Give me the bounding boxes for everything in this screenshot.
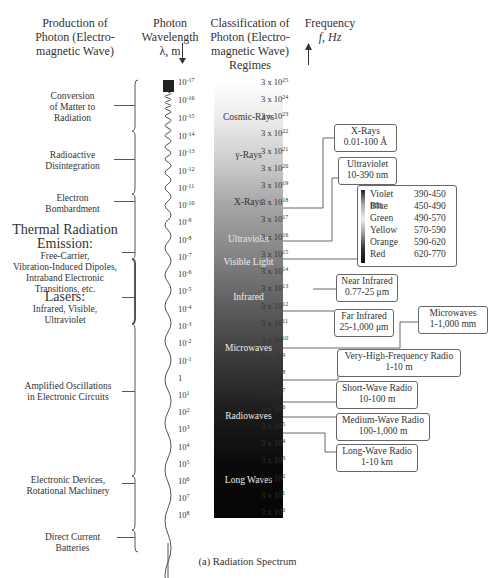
range-box-near-infrared: Near Infrared 0.77-25 μm (336, 274, 398, 302)
range-box-long-wave-radio: Long-Wave Radio 1-10 km (336, 444, 418, 472)
range-box-vhf-radio: Very-High-Frequency Radio 1-10 m (337, 349, 461, 377)
range-value: 100-1,000 m (340, 426, 426, 437)
range-value: 25-1,000 μm (338, 322, 390, 333)
visible-row: Orange590-620 (370, 237, 446, 248)
range-box-xrays: X-Rays 0.01-100 Å (334, 124, 397, 152)
range-name: Short-Wave Radio (340, 383, 414, 394)
range-value: 0.77-25 μm (340, 287, 394, 298)
range-name: Long-Wave Radio (340, 446, 414, 457)
range-connectors (0, 0, 495, 578)
range-name: Near Infrared (340, 276, 394, 287)
visible-row: Green490-570 (370, 213, 446, 224)
visible-row: Yellow570-590 (370, 225, 446, 236)
range-box-short-wave-radio: Short-Wave Radio 10-100 m (336, 381, 418, 409)
range-box-far-infrared: Far Infrared 25-1,000 μm (334, 309, 394, 337)
range-value: 1-1,000 mm (422, 319, 484, 330)
range-box-microwaves: Microwaves 1-1,000 mm (418, 306, 488, 334)
range-value: 10-100 m (340, 394, 414, 405)
range-value: 10-390 nm (342, 170, 393, 181)
visible-color-gradient (361, 190, 365, 263)
visible-row: Blue450-490 (370, 201, 446, 212)
figure-caption: (a) Radiation Spectrum (0, 556, 495, 567)
range-box-ultraviolet: Ultraviolet 10-390 nm (338, 157, 397, 185)
range-name: Microwaves (422, 308, 484, 319)
range-name: Far Infrared (338, 311, 390, 322)
visible-row: Red620-770 (370, 249, 446, 260)
range-box-visible-light: Violet390-450 nm Blue450-490 Green490-57… (357, 185, 457, 267)
range-name: Very-High-Frequency Radio (341, 351, 457, 362)
range-value: 1-10 km (340, 457, 414, 468)
range-value: 0.01-100 Å (338, 137, 393, 148)
range-box-medium-wave-radio: Medium-Wave Radio 100-1,000 m (336, 413, 430, 441)
range-name: X-Rays (338, 126, 393, 137)
range-value: 1-10 m (341, 362, 457, 373)
range-name: Ultraviolet (342, 159, 393, 170)
range-name: Medium-Wave Radio (340, 415, 426, 426)
